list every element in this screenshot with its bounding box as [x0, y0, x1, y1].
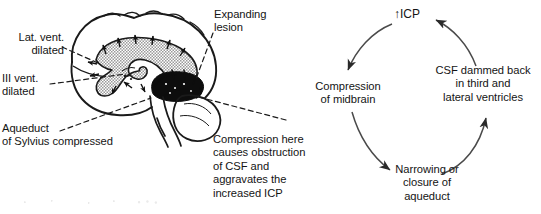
- cycle-node-icp: ↑ICP: [382, 8, 432, 21]
- cycle-node-narrowing-or-closure-of-aqueduct: Narrowing or closure of aqueduct: [378, 163, 476, 203]
- label-third-ventricle-dilated: III vent. dilated: [2, 72, 64, 99]
- label-lateral-ventricle-dilated: Lat. vent. dilated: [2, 31, 64, 58]
- label-expanding-lesion: Expanding lesion: [214, 8, 298, 35]
- figure-page: Lat. vent. dilated III vent. dilated Aqu…: [0, 0, 541, 214]
- leader-lateral-ventricle: [62, 47, 98, 63]
- arrow-midbrain-to-aqueduct: [352, 112, 390, 170]
- label-aqueduct-of-sylvius: Aqueduct of Sylvius compressed: [2, 122, 162, 149]
- vicious-cycle-diagram: ↑ICP Compression of midbrain Narrowing o…: [290, 0, 541, 214]
- scan-artifact: [8, 198, 176, 205]
- sagittal-brain-illustration: Lat. vent. dilated III vent. dilated Aqu…: [0, 0, 300, 214]
- arrow-icp-to-midbrain: [348, 24, 392, 70]
- cycle-node-compression-of-midbrain: Compression of midbrain: [300, 80, 396, 107]
- arrow-csf-to-icp: [436, 20, 476, 66]
- cycle-node-csf-dammed-back: CSF dammed back in third and lateral ven…: [426, 64, 540, 104]
- leader-expanding-lesion: [196, 33, 213, 79]
- third-ventricle-arrow: [124, 82, 132, 88]
